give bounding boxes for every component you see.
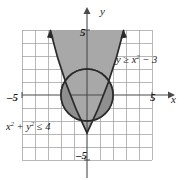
y-axis-min-tick-label: –5 (76, 150, 87, 161)
y-axis-arrow (84, 7, 91, 14)
x-axis-max-tick-label: 5 (150, 92, 156, 103)
coordinate-plane-svg (0, 0, 188, 180)
parabola-inequality-label: y ≥ x2 − 3 (116, 55, 157, 66)
x-axis-min-tick-label: –5 (7, 92, 18, 103)
y-axis-max-tick-label: 5 (80, 27, 86, 38)
circle-inequality-tail: ≤ 4 (34, 121, 50, 132)
y-axis-name-label: y (100, 6, 105, 17)
inequality-graph-figure: y ≥ x2 − 3 x2 + y2 ≤ 4 –5 5 5 –5 x y (0, 0, 188, 180)
parabola-inequality-tail: − 3 (140, 54, 158, 65)
x-axis-name-label: x (171, 94, 176, 105)
parabola-inequality-text: y ≥ x (116, 54, 136, 65)
circle-inequality-mid: + y (14, 121, 31, 132)
circle-inequality-label: x2 + y2 ≤ 4 (6, 122, 50, 133)
